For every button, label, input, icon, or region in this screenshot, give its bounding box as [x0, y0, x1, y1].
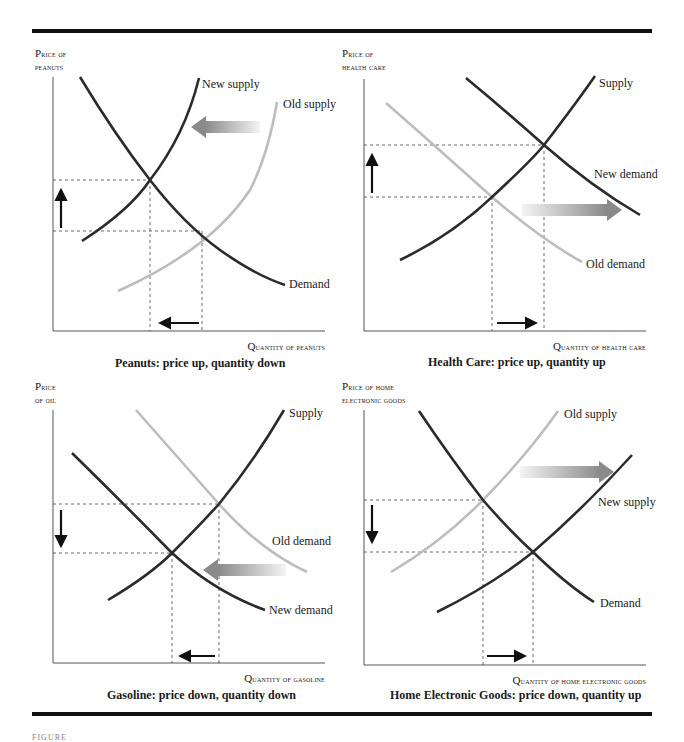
curve-label-old-demand: Old demand	[272, 534, 331, 549]
curve-label-demand: Demand	[289, 277, 330, 292]
x-axis-label: Quantity of gasoline	[244, 672, 325, 684]
old-supply-curve	[391, 411, 558, 572]
panel-peanuts: Price of peanuts New supply Old supply D…	[0, 40, 342, 380]
curve-label-new-supply: New supply	[202, 77, 260, 92]
panel-health-care: Price of health care Supply New demand O…	[342, 40, 684, 380]
top-rule	[32, 29, 652, 33]
curve-label-supply: Supply	[289, 406, 323, 421]
shift-arrow-right-icon	[522, 199, 622, 221]
health-care-graph	[342, 40, 684, 380]
peanuts-graph	[0, 40, 342, 380]
y-axis-label: Price of home electronic goods	[342, 380, 405, 407]
y-axis-label: Price of oil	[35, 380, 56, 407]
new-demand-curve	[466, 78, 640, 215]
figure-label: FIGURE	[32, 733, 67, 742]
curve-label-demand: Demand	[600, 596, 641, 611]
curve-label-old-supply: Old supply	[283, 97, 336, 112]
old-demand-curve	[386, 103, 582, 262]
curve-label-new-demand: New demand	[594, 167, 658, 182]
x-axis-label: Quantity of health care	[553, 340, 646, 352]
shift-arrow-right-icon	[520, 461, 614, 483]
panel-caption: Home Electronic Goods: price down, quant…	[390, 688, 641, 703]
bottom-rule	[32, 712, 652, 716]
panel-caption: Peanuts: price up, quantity down	[115, 356, 285, 371]
y-axis-label: Price of health care	[342, 47, 386, 74]
y-axis-label: Price of peanuts	[35, 47, 66, 74]
panel-caption: Health Care: price up, quantity up	[428, 355, 606, 370]
x-axis-label: Quantity of home electronic goods	[512, 674, 646, 686]
shift-arrow-left-icon	[191, 116, 260, 138]
curve-label-old-supply: Old supply	[564, 407, 617, 422]
demand-curve	[419, 411, 594, 602]
panel-gasoline: Price of oil Supply Old demand New deman…	[0, 370, 342, 710]
panel-home-electronics: Price of home electronic goods Old suppl…	[342, 370, 684, 710]
panel-caption: Gasoline: price down, quantity down	[107, 688, 296, 703]
home-electronics-graph	[342, 370, 684, 710]
shift-arrow-left-icon	[203, 559, 286, 581]
curve-label-supply: Supply	[599, 76, 633, 91]
curve-label-new-demand: New demand	[269, 603, 333, 618]
curve-label-old-demand: Old demand	[586, 257, 645, 272]
curve-label-new-supply: New supply	[598, 495, 656, 510]
new-demand-curve	[72, 453, 265, 610]
x-axis-label: Quantity of peanuts	[247, 340, 325, 352]
